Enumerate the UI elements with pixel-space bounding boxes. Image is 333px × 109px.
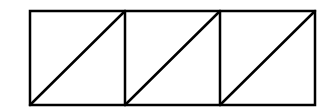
cell-1-diagonal: [30, 11, 125, 105]
cell-2-diagonal: [125, 11, 220, 105]
cell-3-diagonal: [220, 11, 315, 105]
cell-1: [30, 11, 125, 105]
cell-3: [220, 11, 315, 105]
cell-2: [125, 11, 220, 105]
triangle-grid-diagram: [0, 0, 333, 109]
